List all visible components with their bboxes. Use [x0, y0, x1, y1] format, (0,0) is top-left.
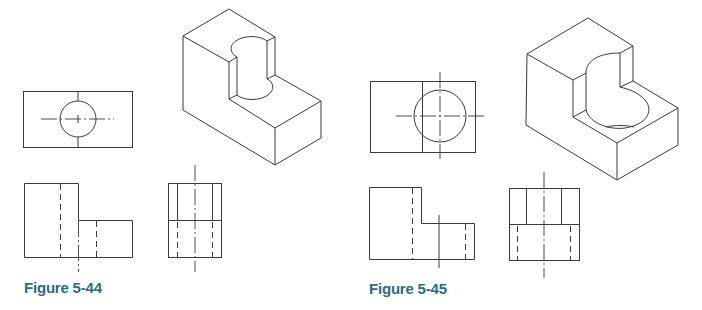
figure-caption-5-44: Figure 5-44	[24, 279, 102, 296]
iso-lower-top-front-edge	[229, 99, 275, 128]
fig44-side-view	[169, 165, 222, 272]
iso-lower-top-right-edge	[275, 101, 321, 128]
iso-top-back-edges	[527, 18, 633, 54]
figure-5-45-drawing	[370, 18, 679, 278]
iso-top-front-left-edge	[527, 54, 573, 80]
figure-caption-5-45: Figure 5-45	[369, 280, 447, 297]
iso-top-front-stub-right	[267, 37, 275, 41]
fig45-front-view	[370, 188, 475, 269]
fig44-top-view	[24, 92, 133, 148]
iso-bottom-left-edge	[183, 110, 275, 165]
figure-5-44-drawing	[24, 9, 322, 272]
fig45-isometric-view	[526, 18, 678, 180]
iso-lower-top-front-edge	[573, 117, 617, 143]
iso-bottom-right-edge	[617, 145, 678, 180]
iso-step-bottom-stub	[573, 110, 586, 117]
iso-step-back-stub	[267, 75, 275, 79]
iso-step-back-stub	[620, 81, 633, 87]
iso-top-front-stub-right	[620, 46, 633, 53]
drawing-canvas	[0, 0, 702, 310]
iso-left-vertical-edge	[526, 54, 527, 125]
fig45-side-view	[510, 172, 580, 278]
fig44-front-view	[25, 184, 133, 273]
iso-cutout-top-arc	[586, 53, 620, 73]
iso-bottom-right-edge	[275, 138, 321, 165]
front-view-outline	[370, 188, 475, 260]
iso-top-back-edges	[183, 9, 275, 37]
fig45-top-view	[371, 72, 485, 159]
iso-top-front-left-edge	[183, 36, 229, 62]
iso-lower-top-back-edge	[633, 81, 678, 108]
iso-top-front-stub-left	[573, 73, 586, 80]
iso-top-front-stub-left	[229, 57, 237, 62]
fig44-isometric-view	[183, 9, 321, 165]
iso-cutout-bottom-arc	[586, 87, 649, 128]
iso-lower-top-back-edge	[275, 75, 321, 101]
iso-cutout-bottom-arc	[237, 79, 273, 100]
iso-cutout-top-arc	[231, 37, 267, 57]
iso-step-bottom-stub	[229, 95, 237, 99]
iso-bottom-left-edge	[526, 125, 617, 180]
